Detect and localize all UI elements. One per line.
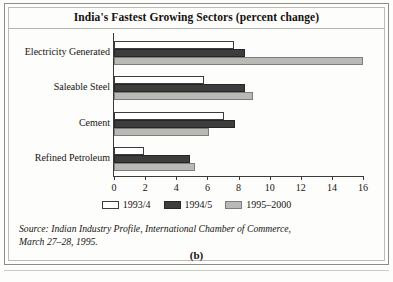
- legend-label: 1993/4: [123, 199, 151, 210]
- legend-swatch-icon: [225, 201, 242, 209]
- x-axis-tick: [207, 176, 208, 180]
- chart-legend: 1993/41994/51995–2000: [0, 199, 393, 210]
- legend-label: 1995–2000: [246, 199, 291, 210]
- figure-panel: India's Fastest Growing Sectors (percent…: [0, 0, 393, 282]
- source-note: Source: Indian Industry Profile, Interna…: [19, 222, 369, 248]
- bar: [114, 49, 245, 57]
- x-axis-tick-label: 0: [112, 182, 117, 193]
- y-axis-category-label: Saleable Steel: [54, 81, 110, 92]
- bar-group: [114, 147, 363, 171]
- plot-area: 0246810121416: [114, 34, 363, 176]
- bar: [114, 92, 253, 100]
- bar-group: [114, 112, 363, 136]
- x-axis-tick: [270, 176, 271, 180]
- legend-label: 1994/5: [185, 199, 213, 210]
- source-note-line-2: March 27–28, 1995.: [19, 235, 369, 248]
- bar-group: [114, 41, 363, 65]
- legend-item: 1993/4: [102, 199, 151, 210]
- title-divider: [9, 28, 384, 29]
- x-axis-tick-label: 14: [327, 182, 337, 193]
- bar: [114, 155, 190, 163]
- legend-item: 1995–2000: [225, 199, 291, 210]
- source-note-line-1: Source: Indian Industry Profile, Interna…: [19, 222, 369, 235]
- x-axis-tick-label: 12: [296, 182, 306, 193]
- y-axis-category-label: Cement: [79, 117, 110, 128]
- figure-caption: (b): [0, 249, 393, 261]
- legend-swatch-icon: [164, 201, 181, 209]
- bar: [114, 163, 195, 171]
- bar: [114, 41, 234, 49]
- y-axis-category-label: Refined Petroleum: [35, 152, 110, 163]
- x-axis-tick: [176, 176, 177, 180]
- x-axis-tick-label: 8: [236, 182, 241, 193]
- x-axis-tick: [145, 176, 146, 180]
- x-axis-tick-label: 10: [265, 182, 275, 193]
- bar: [114, 84, 245, 92]
- bar-group: [114, 76, 363, 100]
- legend-swatch-icon: [102, 201, 119, 209]
- bar: [114, 147, 144, 155]
- x-axis-tick: [301, 176, 302, 180]
- x-axis-tick-label: 16: [358, 182, 368, 193]
- chart-title: India's Fastest Growing Sectors (percent…: [10, 11, 383, 23]
- x-axis-tick-label: 6: [205, 182, 210, 193]
- bar: [114, 57, 363, 65]
- x-axis-tick: [114, 176, 115, 180]
- bar: [114, 76, 204, 84]
- y-axis-category-label: Electricity Generated: [25, 46, 110, 57]
- x-axis-tick: [332, 176, 333, 180]
- x-axis-tick-label: 4: [174, 182, 179, 193]
- x-axis-tick: [363, 176, 364, 180]
- bar: [114, 128, 209, 136]
- x-axis-tick-label: 2: [143, 182, 148, 193]
- legend-item: 1994/5: [164, 199, 213, 210]
- bar: [114, 112, 224, 120]
- bar: [114, 120, 235, 128]
- x-axis-tick: [239, 176, 240, 180]
- bottom-divider: [4, 270, 389, 271]
